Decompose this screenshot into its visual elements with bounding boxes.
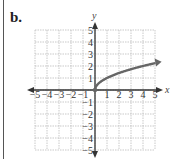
- data-curve: [93, 59, 162, 93]
- y-tick-label: 4: [88, 37, 93, 48]
- y-tick-label: −2: [82, 109, 93, 120]
- chart-plot: x y −5−4−3−2−11234554321−1−2−3−4−5: [0, 0, 177, 159]
- curve-end-arrow-icon: [155, 59, 162, 67]
- x-tick-label: −2: [66, 89, 77, 100]
- y-tick-label: −3: [82, 121, 93, 132]
- x-tick-label: 2: [117, 89, 122, 100]
- sqrt-curve: [95, 63, 156, 90]
- x-tick-label: −3: [54, 89, 65, 100]
- y-tick-label: −5: [82, 145, 93, 156]
- x-tick-label: 5: [153, 89, 158, 100]
- x-tick-label: 3: [129, 89, 134, 100]
- y-tick-label: −1: [82, 97, 93, 108]
- y-tick-label: −4: [82, 133, 93, 144]
- y-tick-label: 5: [88, 25, 93, 36]
- y-axis-label: y: [91, 10, 97, 21]
- y-tick-label: 3: [88, 49, 93, 60]
- x-tick-label: −4: [42, 89, 53, 100]
- start-point-dot: [93, 88, 97, 92]
- x-tick-label: 1: [105, 89, 110, 100]
- y-tick-label: 2: [88, 61, 93, 72]
- y-tick-label: 1: [88, 73, 93, 84]
- x-axis-label: x: [164, 84, 170, 95]
- x-tick-label: −5: [30, 89, 41, 100]
- x-tick-label: 4: [141, 89, 146, 100]
